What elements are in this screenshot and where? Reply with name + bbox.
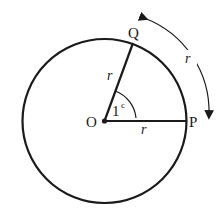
label-arc-length: r (185, 51, 191, 66)
label-q: Q (128, 25, 139, 41)
arc-length-arrow (144, 18, 209, 115)
center-point (102, 118, 107, 123)
label-o: O (86, 114, 97, 130)
label-radius-op: r (141, 122, 147, 137)
radian-diagram: O Q P r r r 1 c (0, 0, 221, 211)
label-radius-oq: r (107, 68, 113, 83)
label-angle-unit: c (121, 100, 125, 110)
label-p: P (189, 114, 197, 130)
label-angle: 1 (112, 103, 120, 119)
